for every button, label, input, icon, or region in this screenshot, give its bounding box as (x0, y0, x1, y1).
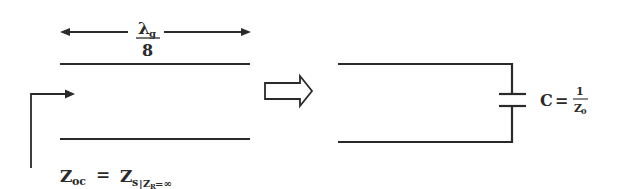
zoc-symbol: Z (60, 166, 72, 186)
equivalent-capacitor-circuit (338, 64, 526, 142)
length-denominator: 8 (142, 41, 153, 60)
input-impedance-label: Z oc = Z s | Z R =∞ (60, 164, 172, 189)
transmission-line-stub (60, 64, 250, 139)
arrowhead-right-icon (65, 90, 75, 99)
stub-equivalence-diagram: λ g 8 Z oc = Z s | Z R =∞ C = 1 Z 0 (0, 0, 617, 189)
capacitance-numerator: 1 (576, 85, 584, 98)
equivalence-arrow-icon (265, 76, 312, 106)
z0-subscript: 0 (581, 106, 587, 116)
top-conductor (338, 64, 512, 94)
condition-value: =∞ (155, 178, 172, 189)
capacitance-symbol: C (540, 91, 553, 110)
arrowhead-left-icon (60, 28, 70, 36)
equals-sign: = (96, 164, 110, 184)
arrowhead-right-icon (241, 28, 251, 36)
zoc-subscript: oc (72, 175, 86, 188)
bottom-conductor (338, 106, 512, 142)
length-label: λ g 8 (136, 18, 160, 60)
zs-subscript: s (132, 176, 138, 189)
input-port-arrow (31, 90, 75, 169)
equals-sign: = (555, 91, 568, 110)
zs-symbol: Z (120, 166, 132, 186)
capacitor-label: C = 1 Z 0 (540, 85, 588, 116)
